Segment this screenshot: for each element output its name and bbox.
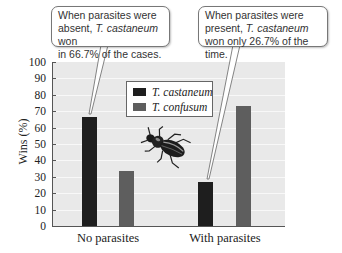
beetle-icon xyxy=(0,0,342,253)
